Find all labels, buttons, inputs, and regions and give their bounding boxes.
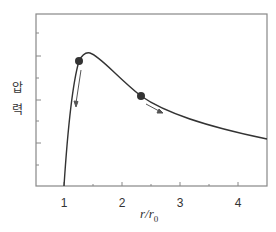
x-tick-label-3: 3 — [170, 196, 190, 210]
arrow-right-icon — [146, 104, 163, 113]
x-tick-label-1: 1 — [54, 196, 74, 210]
x-axis-label-main: r/r — [140, 206, 154, 221]
x-tick-label-4: 4 — [228, 196, 248, 210]
y-axis-label-line1: 압 — [9, 77, 25, 99]
marker-point-1 — [75, 57, 83, 65]
y-axis-label-line2: 력 — [9, 99, 25, 121]
marker-point-2 — [137, 92, 145, 100]
x-tick-label-2: 2 — [112, 196, 132, 210]
y-axis-label: 압 력 — [9, 77, 25, 121]
x-axis-label: r/r0 — [140, 206, 158, 224]
pressure-curve — [64, 53, 267, 186]
plot-frame — [36, 14, 267, 186]
y-axis-ticks — [36, 33, 41, 165]
x-axis-label-sub: 0 — [154, 214, 159, 224]
x-axis-ticks — [64, 182, 238, 186]
